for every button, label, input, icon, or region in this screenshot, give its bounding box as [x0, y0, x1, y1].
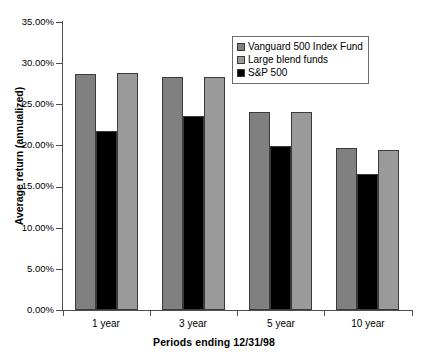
y-tick-label-35: 35.00%: [0, 17, 54, 27]
y-tick-label-20: 20.00%: [0, 140, 54, 150]
bar-5year-vanguard-500-index-fund: [249, 112, 270, 310]
legend-item-large-blend-funds: Large blend funds: [237, 53, 363, 66]
x-tick-mark-0: [63, 310, 64, 316]
bar-chart: 35.00% 30.00% 25.00% 20.00% 15.00% 10.00…: [0, 0, 428, 354]
legend-label-vanguard: Vanguard 500 Index Fund: [248, 41, 363, 53]
x-tick-label-1year: 1 year: [66, 318, 146, 330]
x-tick-mark-4: [412, 310, 413, 316]
bar-1year-vanguard-500-index-fund: [75, 74, 96, 310]
bar-10year-large-blend-funds: [357, 174, 378, 310]
bar-1year-s-and-p-500: [117, 73, 138, 310]
y-tick-label-15: 15.00%: [0, 181, 54, 191]
x-tick-label-10year: 10 year: [328, 318, 408, 330]
bar-3year-large-blend-funds: [183, 116, 204, 310]
x-axis-title: Periods ending 12/31/98: [0, 336, 428, 348]
bar-10year-s-and-p-500: [378, 150, 399, 310]
bar-5year-s-and-p-500: [291, 112, 312, 310]
x-tick-mark-2: [237, 310, 238, 316]
x-tick-label-3year: 3 year: [153, 318, 233, 330]
legend-label-sp500: S&P 500: [248, 67, 287, 79]
x-tick-mark-3: [324, 310, 325, 316]
legend-swatch-icon-vanguard: [237, 43, 245, 51]
y-tick-label-0: 0.00%: [0, 305, 54, 315]
bar-1year-large-blend-funds: [96, 131, 117, 310]
y-tick-label-30: 30.00%: [0, 58, 54, 68]
y-tick-label-25: 25.00%: [0, 99, 54, 109]
legend-swatch-icon-large-blend: [237, 56, 245, 64]
bar-5year-large-blend-funds: [270, 146, 291, 310]
y-tick-label-10: 10.00%: [0, 223, 54, 233]
legend-item-vanguard-500-index-fund: Vanguard 500 Index Fund: [237, 40, 363, 53]
bar-10year-vanguard-500-index-fund: [336, 148, 357, 310]
chart-legend: Vanguard 500 Index Fund Large blend fund…: [232, 36, 369, 84]
legend-swatch-icon-sp500: [237, 69, 245, 77]
y-tick-label-5: 5.00%: [0, 264, 54, 274]
bar-3year-vanguard-500-index-fund: [162, 77, 183, 310]
legend-item-s-and-p-500: S&P 500: [237, 66, 363, 79]
x-tick-mark-1: [150, 310, 151, 316]
x-tick-label-5year: 5 year: [241, 318, 321, 330]
y-axis-title: Average return (annualized): [13, 41, 25, 271]
bar-3year-s-and-p-500: [204, 77, 225, 310]
legend-label-large-blend: Large blend funds: [248, 54, 328, 66]
